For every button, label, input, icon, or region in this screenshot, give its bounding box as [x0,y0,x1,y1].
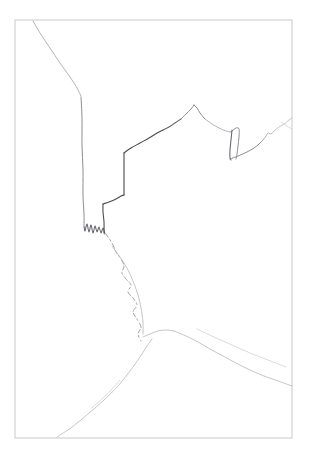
paper-background [0,0,309,457]
pencil-sketch-drawing [0,0,309,457]
sketch-canvas [0,0,309,457]
